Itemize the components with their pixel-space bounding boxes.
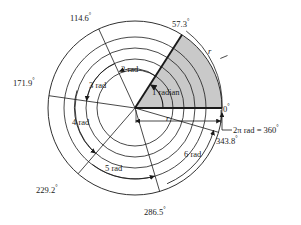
rad-5-label: 5 rad [105,164,122,173]
rad-1-label: 1 radian [152,88,180,97]
rad-6-label: 6 rad [184,150,201,159]
radius-arc-label: r [208,47,211,56]
full-turn-label: 2π rad = 360° [233,124,279,134]
degree-171-label: 171.9° [13,77,35,87]
rad-2-label: 2 rad [121,65,138,74]
degree-286-label: 286.5° [144,206,166,216]
radial-171deg [49,96,135,108]
degree-114-label: 114.6° [70,12,91,22]
rad-3-label: 3 rad [89,81,106,90]
rad-4-label: 4 rad [72,118,89,127]
degree-57-label: 57.3° [172,18,189,28]
radius-base-label: r [166,114,169,123]
degree-343-label: 343.8° [216,135,238,145]
arc-bracket-tick [220,56,227,59]
degree-229-label: 229.2° [36,184,58,194]
zero-degree-label: 0° [223,103,230,113]
radian-circle-figure: r r 0° 57.3° 114.6° 171.9° 229.2° 286.5°… [0,0,301,225]
